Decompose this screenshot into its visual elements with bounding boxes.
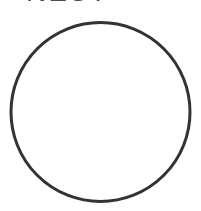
circle-figure	[0, 0, 201, 211]
circle-svg	[0, 0, 201, 211]
circle-outline	[11, 23, 190, 202]
